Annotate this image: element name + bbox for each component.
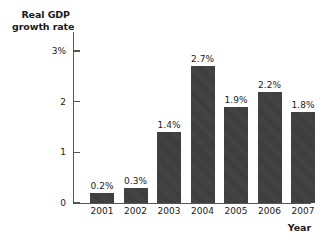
y-axis-title-line1: Real GDP xyxy=(21,9,70,20)
bar-value-label: 2.7% xyxy=(182,54,224,64)
x-axis-line xyxy=(73,203,311,204)
bar-value-label: 2.2% xyxy=(249,80,291,90)
bar[interactable] xyxy=(291,112,315,203)
x-tick-label-2007: 2007 xyxy=(283,206,323,216)
bar[interactable] xyxy=(258,92,282,203)
bar[interactable] xyxy=(191,66,215,203)
bar-group: 2.7% xyxy=(186,32,220,203)
bar-group: 1.9% xyxy=(219,32,253,203)
bar-value-label: 1.8% xyxy=(282,100,324,110)
y-tick-label: 3% xyxy=(26,46,66,56)
bar[interactable] xyxy=(224,107,248,203)
bar-group: 2.2% xyxy=(253,32,287,203)
bar-chart: Real GDP growth rate 0123% 0.2%0.3%1.4%2… xyxy=(0,0,332,242)
bar-value-label: 1.9% xyxy=(215,95,257,105)
bar-group: 1.8% xyxy=(286,32,320,203)
bar-value-label: 0.3% xyxy=(115,176,157,186)
y-tick-label: 2 xyxy=(26,97,66,107)
bar[interactable] xyxy=(124,188,148,203)
bar[interactable] xyxy=(90,193,114,203)
plot-area: 0.2%0.3%1.4%2.7%1.9%2.2%1.8% xyxy=(74,32,311,203)
bar[interactable] xyxy=(157,132,181,203)
y-tick-label: 1 xyxy=(26,147,66,157)
bar-value-label: 1.4% xyxy=(148,120,190,130)
y-axis-title: Real GDP growth rate xyxy=(12,9,70,33)
bar-group: 0.3% xyxy=(119,32,153,203)
y-tick-label: 0 xyxy=(26,198,66,208)
y-axis-title-line2: growth rate xyxy=(12,21,70,33)
x-axis-title: Year xyxy=(288,222,311,233)
